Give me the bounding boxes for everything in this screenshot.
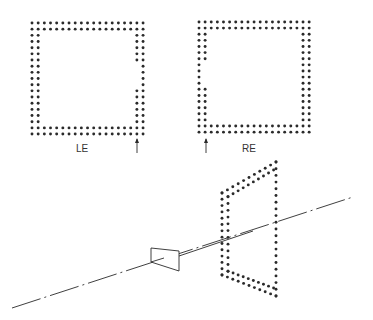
- dot: [289, 131, 292, 134]
- dot: [204, 125, 207, 128]
- dot: [227, 249, 230, 252]
- dot: [227, 216, 230, 219]
- solid-axis-segment: [179, 231, 253, 256]
- dot: [308, 125, 311, 128]
- dot: [31, 52, 34, 55]
- dot: [226, 276, 229, 279]
- dot: [135, 133, 138, 136]
- dot: [231, 278, 234, 281]
- dot: [242, 282, 245, 285]
- dot: [228, 21, 231, 24]
- dot: [135, 34, 138, 37]
- dot: [135, 114, 138, 117]
- dot: [204, 51, 207, 54]
- right-eye-label: RE: [242, 143, 256, 154]
- dot: [74, 28, 77, 31]
- dot: [308, 27, 311, 30]
- dot: [221, 229, 224, 232]
- dot: [80, 22, 83, 25]
- dot: [198, 100, 201, 103]
- dot: [210, 27, 213, 30]
- dot: [227, 202, 230, 205]
- dot: [234, 21, 237, 24]
- dot: [49, 126, 52, 129]
- dot: [198, 106, 201, 109]
- dot: [264, 290, 267, 293]
- dot: [227, 243, 230, 246]
- dot: [242, 186, 245, 189]
- dot: [308, 51, 311, 54]
- dot: [98, 22, 101, 25]
- dot: [135, 46, 138, 49]
- dot: [61, 126, 64, 129]
- dot: [257, 281, 260, 284]
- dot: [198, 131, 201, 134]
- dot: [308, 70, 311, 73]
- dot: [135, 108, 138, 111]
- dot: [275, 274, 278, 277]
- dot: [308, 94, 311, 97]
- dot: [222, 27, 225, 30]
- dot: [234, 131, 237, 134]
- dot: [111, 126, 114, 129]
- dot: [86, 22, 89, 25]
- dot: [105, 133, 108, 136]
- dot: [204, 33, 207, 36]
- dot: [129, 126, 132, 129]
- dot: [198, 21, 201, 24]
- dot: [37, 71, 40, 74]
- dot: [302, 131, 305, 134]
- dot: [247, 183, 250, 186]
- dot: [295, 125, 298, 128]
- dot: [204, 27, 207, 30]
- viewer-eye-trapezoid: [151, 248, 179, 271]
- dot: [308, 100, 311, 103]
- dot: [308, 131, 311, 134]
- dot: [222, 21, 225, 24]
- perspective-dot-frame: [221, 161, 278, 298]
- dot: [247, 125, 250, 128]
- dot: [308, 39, 311, 42]
- dot: [262, 175, 265, 178]
- right-eye-dot-square: [198, 21, 311, 134]
- dot: [198, 39, 201, 42]
- dot: [269, 164, 272, 167]
- dot: [275, 194, 278, 197]
- dot: [142, 77, 145, 80]
- dot: [248, 176, 251, 179]
- dot: [37, 59, 40, 62]
- dot: [37, 102, 40, 105]
- dot: [142, 96, 145, 99]
- dot: [142, 40, 145, 43]
- dot: [227, 236, 230, 239]
- dot: [275, 248, 278, 251]
- dot: [275, 187, 278, 190]
- dot: [308, 118, 311, 121]
- dot: [265, 27, 268, 30]
- dot: [37, 46, 40, 49]
- dot: [216, 21, 219, 24]
- dot: [142, 108, 145, 111]
- dot: [289, 125, 292, 128]
- dash-dot-visual-axis: [12, 197, 353, 308]
- dot: [135, 28, 138, 31]
- dot: [289, 21, 292, 24]
- dot: [105, 28, 108, 31]
- dot: [259, 21, 262, 24]
- dot: [308, 21, 311, 24]
- dot: [253, 125, 256, 128]
- dot: [135, 126, 138, 129]
- dot: [123, 28, 126, 31]
- dot: [198, 82, 201, 85]
- dot: [232, 272, 235, 275]
- dot: [210, 125, 213, 128]
- dot: [302, 125, 305, 128]
- dot: [228, 125, 231, 128]
- dot: [252, 279, 255, 282]
- dot: [86, 28, 89, 31]
- dot: [204, 39, 207, 42]
- dot: [198, 118, 201, 121]
- dot: [242, 275, 245, 278]
- dot: [68, 22, 71, 25]
- dot: [198, 63, 201, 66]
